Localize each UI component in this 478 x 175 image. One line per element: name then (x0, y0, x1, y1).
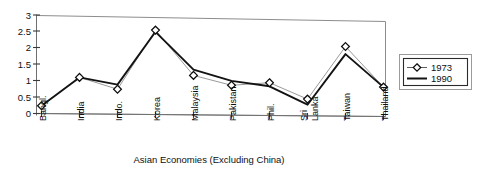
y-tick-label: 1 (26, 75, 31, 86)
x-tick-label: Lanka (310, 96, 320, 121)
y-axis-tick-labels: 0 0.5 1 1.5 2 2.5 3 (18, 10, 31, 120)
line-chart-svg: 0 0.5 1 1.5 2 2.5 3 (0, 0, 478, 175)
x-tick-label: Malaysia (190, 85, 200, 121)
plot-frame (37, 16, 386, 117)
legend-label-1990: 1990 (431, 73, 452, 84)
y-tick-label: 3 (26, 10, 31, 21)
y-tick-label: 0.5 (18, 92, 31, 103)
x-tick-label: Phil. (266, 103, 276, 121)
x-tick-label: Taiwan (342, 93, 352, 121)
y-tick-label: 2.5 (18, 26, 31, 37)
x-tick-label: Pakistan (228, 86, 238, 121)
x-tick-label: Indo. (114, 101, 124, 121)
x-tick-label: Korea (152, 97, 162, 121)
x-tick-label: Thailand (380, 86, 390, 121)
y-tick-label: 2 (26, 42, 31, 53)
y-tick-label: 0 (26, 108, 31, 119)
series-line-1990 (42, 32, 384, 106)
series-line-1973 (42, 30, 384, 106)
x-tick-label: Bangl. (38, 95, 48, 121)
x-axis-title: Asian Economies (Excluding China) (133, 154, 284, 165)
chart-legend: 1973 1990 (400, 55, 472, 90)
x-tick-label: Sri (299, 110, 309, 121)
x-axis-line (37, 114, 386, 117)
chart-figure: 0 0.5 1 1.5 2 2.5 3 (0, 0, 478, 175)
legend-label-1973: 1973 (431, 62, 452, 73)
y-tick-label: 1.5 (18, 59, 31, 70)
x-tick-label: India (76, 101, 86, 121)
